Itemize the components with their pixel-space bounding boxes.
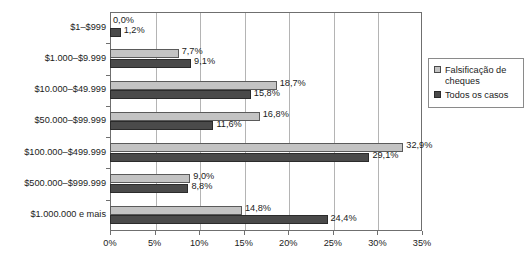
x-tick — [155, 231, 156, 235]
bar-value-label: 0,0% — [113, 16, 134, 25]
bar-todos-casos[interactable] — [110, 59, 191, 68]
bar-value-label: 29,1% — [372, 151, 398, 160]
light-gray-swatch-icon — [434, 66, 441, 73]
dark-gray-swatch-icon — [434, 91, 441, 98]
x-tick-label: 30% — [357, 239, 397, 248]
x-tick-label: 25% — [313, 239, 353, 248]
category-label: $1.000.000 e mais — [0, 210, 106, 219]
x-tick — [288, 231, 289, 235]
bar-value-label: 8,8% — [191, 182, 212, 191]
x-tick — [244, 231, 245, 235]
bar-value-label: 16,8% — [263, 110, 289, 119]
legend-item-falsificacao-de-cheques[interactable]: Falsificação de cheques — [434, 65, 518, 87]
bar-todos-casos[interactable] — [110, 184, 188, 193]
x-tick-label: 20% — [268, 239, 308, 248]
category-label: $50.000–$99.999 — [0, 116, 106, 125]
legend-label: Todos os casos — [445, 90, 508, 101]
x-tick — [377, 231, 378, 235]
x-tick — [199, 231, 200, 235]
bar-value-label: 7,7% — [182, 47, 203, 56]
bar-todos-casos[interactable] — [110, 215, 328, 224]
bar-todos-casos[interactable] — [110, 90, 251, 99]
category-label: $100.000–$499.999 — [0, 148, 106, 157]
bar-falsificacao[interactable] — [110, 143, 403, 152]
category-label: $1.000–$9.999 — [0, 54, 106, 63]
x-tick-label: 10% — [179, 239, 219, 248]
x-tick-label: 0% — [90, 239, 130, 248]
bar-value-label: 24,4% — [331, 214, 357, 223]
x-tick-label: 15% — [224, 239, 264, 248]
x-tick — [333, 231, 334, 235]
category-row: $1–$9990,0%1,2% — [0, 12, 532, 43]
bar-value-label: 9,1% — [194, 57, 215, 66]
bar-value-label: 1,2% — [124, 26, 145, 35]
bar-falsificacao[interactable] — [110, 81, 277, 90]
x-tick-label: 35% — [402, 239, 442, 248]
bar-falsificacao[interactable] — [110, 174, 190, 183]
bar-value-label: 15,8% — [254, 89, 280, 98]
category-label: $10.000–$49.999 — [0, 85, 106, 94]
bar-falsificacao[interactable] — [110, 206, 242, 215]
x-tick — [422, 231, 423, 235]
bar-value-label: 14,8% — [245, 204, 271, 213]
bar-value-label: 11,6% — [216, 120, 241, 129]
bar-falsificacao[interactable] — [110, 49, 179, 58]
legend-label: Falsificação de cheques — [445, 65, 518, 87]
category-row: $50.000–$99.99916,8%11,6% — [0, 106, 532, 137]
category-row: $500.000–$999.9999,0%8,8% — [0, 168, 532, 199]
chart-legend: Falsificação de cheques Todos os casos — [428, 58, 524, 108]
bar-todos-casos[interactable] — [110, 121, 213, 130]
bar-value-label: 32,9% — [406, 141, 432, 150]
bar-value-label: 18,7% — [280, 79, 306, 88]
bar-chart: $1–$9990,0%1,2%$1.000–$9.9997,7%9,1%$10.… — [0, 0, 532, 273]
category-label: $500.000–$999.999 — [0, 179, 106, 188]
bar-todos-casos[interactable] — [110, 28, 121, 37]
legend-item-todos-os-casos[interactable]: Todos os casos — [434, 90, 518, 101]
x-tick-label: 5% — [135, 239, 175, 248]
category-row: $1.000.000 e mais14,8%24,4% — [0, 200, 532, 231]
category-row: $100.000–$499.99932,9%29,1% — [0, 137, 532, 168]
category-label: $1–$999 — [0, 23, 106, 32]
x-tick — [110, 231, 111, 235]
bar-todos-casos[interactable] — [110, 153, 369, 162]
bar-value-label: 9,0% — [193, 172, 214, 181]
